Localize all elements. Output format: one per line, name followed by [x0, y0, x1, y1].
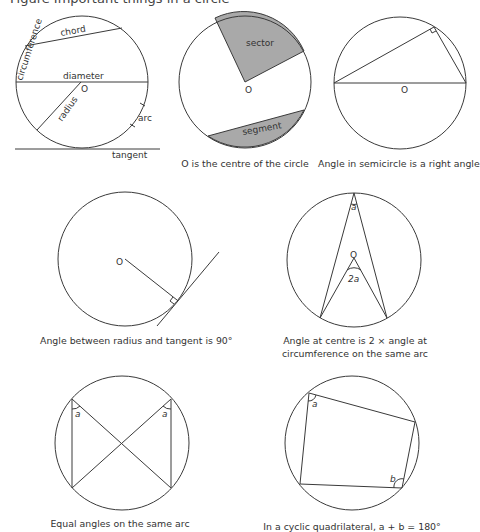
- label-angle-right: a: [162, 409, 168, 419]
- label-radius: radius: [55, 94, 79, 123]
- label-angle-a: a: [312, 399, 318, 409]
- tangent-line: [157, 252, 219, 326]
- caption-semicircle: Angle in semicircle is a right angle: [318, 157, 468, 170]
- label-arc: arc: [138, 113, 152, 123]
- caption-same-arc: Equal angles on the same arc: [40, 517, 200, 530]
- label-diameter: diameter: [63, 71, 104, 81]
- caption-sector-segment: O is the centre of the circle: [175, 157, 315, 170]
- circle-7: [285, 376, 419, 510]
- chord-left: [334, 27, 434, 83]
- label-angle-b: b: [390, 474, 396, 484]
- line-top-right: [354, 193, 387, 318]
- label-centre-o: O: [350, 250, 357, 260]
- caption-centre-angle-line2: circumference on the same arc: [275, 347, 435, 360]
- angle-2a-arc: [347, 268, 361, 270]
- line-centre-right: [354, 258, 387, 318]
- label-angle-a: a: [351, 202, 357, 212]
- label-tangent: tangent: [112, 150, 148, 160]
- chord-right: [434, 27, 466, 83]
- line-top-left: [320, 193, 354, 318]
- label-centre-o: O: [401, 85, 408, 95]
- label-angle-left: a: [75, 409, 81, 419]
- radius-line: [125, 259, 177, 300]
- label-sector: sector: [246, 38, 274, 48]
- diagram-radius-tangent: O: [58, 192, 219, 326]
- label-circumference: circumference: [14, 17, 44, 82]
- diagram-angle-at-centre: a O 2a: [287, 193, 421, 327]
- right-angle-marker: [170, 297, 174, 304]
- circle-5: [287, 193, 421, 327]
- diagram-parts-of-circle: chord circumference diameter O radius ar…: [14, 16, 160, 160]
- caption-centre-angle-line1: Angle at centre is 2 × angle at: [275, 334, 435, 347]
- line-centre-left: [320, 258, 354, 318]
- caption-radius-tangent: Angle between radius and tangent is 90°: [40, 334, 230, 347]
- diagram-semicircle: O: [334, 17, 466, 149]
- label-angle-2a: 2a: [348, 274, 359, 284]
- label-centre-o: O: [116, 257, 123, 267]
- label-centre-o: O: [245, 85, 252, 95]
- label-centre-o: O: [81, 84, 88, 94]
- diagram-cyclic-quadrilateral: a b: [285, 376, 419, 510]
- diagram-sector-segment: sector segment O: [179, 12, 311, 148]
- diagram-same-arc: a a: [55, 376, 189, 510]
- caption-cyclic-quad: In a cyclic quadrilateral, a + b = 180°: [262, 520, 442, 532]
